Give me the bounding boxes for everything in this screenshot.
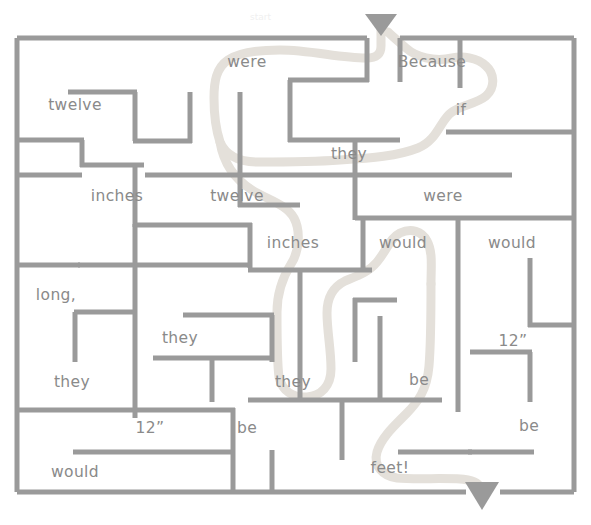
maze-word-would-2: would <box>488 234 536 252</box>
maze-word-twelve-inches-2: 12” <box>136 419 165 437</box>
maze-word-inches-2: inches <box>267 234 320 252</box>
maze-word-be-2: be <box>237 419 257 437</box>
maze-word-inches-1: inches <box>91 187 144 205</box>
maze-word-be-1: be <box>409 371 429 389</box>
maze-word-be-3: be <box>519 417 539 435</box>
maze-word-twelve-2: twelve <box>210 187 264 205</box>
maze-word-were-2: were <box>423 187 462 205</box>
word-maze-puzzle: start <box>0 0 591 525</box>
maze-word-if: if <box>456 101 467 119</box>
exit-arrow-down-icon <box>465 482 499 510</box>
maze-word-twelve-inches-1: 12” <box>499 332 528 350</box>
maze-word-they-3: they <box>54 373 90 391</box>
maze-canvas: start <box>0 0 591 525</box>
maze-word-would-1: would <box>379 234 427 252</box>
maze-word-they-4: they <box>275 373 311 391</box>
maze-word-because: Because <box>398 53 466 71</box>
faint-top-mark: start <box>250 12 271 22</box>
maze-word-were-1: were <box>227 53 266 71</box>
maze-word-twelve-1: twelve <box>48 96 102 114</box>
maze-word-long: long, <box>36 286 76 304</box>
maze-word-they-2: they <box>162 329 198 347</box>
maze-word-feet: feet! <box>371 459 410 477</box>
maze-word-they-1: they <box>331 145 367 163</box>
maze-word-would-3: would <box>51 463 99 481</box>
